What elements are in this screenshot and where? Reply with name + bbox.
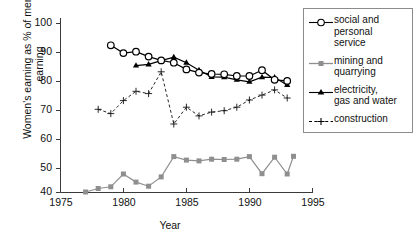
x-tick-1980: 1980 xyxy=(101,196,147,208)
filled-square-marker-icon xyxy=(308,56,334,69)
y-tick-60: 60 xyxy=(26,132,52,144)
legend-item-electricity-gas-and-water: electricity, gas and water xyxy=(308,84,408,107)
open-circle-marker-icon xyxy=(308,15,334,28)
y-tick-70: 70 xyxy=(26,103,52,115)
y-tick-100: 100 xyxy=(26,16,52,28)
legend-label: social and personal service xyxy=(334,14,379,49)
legend-item-social-and-personal-service: social and personal service xyxy=(308,14,408,49)
x-tick-1975: 1975 xyxy=(38,196,84,208)
legend-label: construction xyxy=(334,113,388,125)
x-tick-1995: 1995 xyxy=(290,196,336,208)
filled-triangle-marker-icon xyxy=(308,85,334,98)
y-tick-50: 50 xyxy=(26,161,52,173)
x-axis-label: Year xyxy=(110,219,230,231)
legend-label: mining and quarrying xyxy=(334,55,383,78)
y-tick-80: 80 xyxy=(26,74,52,86)
x-tick-1990: 1990 xyxy=(227,196,273,208)
x-tick-1985: 1985 xyxy=(164,196,210,208)
y-tick-90: 90 xyxy=(26,45,52,57)
plus-marker-icon xyxy=(308,114,334,127)
series-mining-and-quarrying xyxy=(83,154,296,195)
chart-legend: social and personal service mining and q… xyxy=(303,8,413,133)
chart-screenshot: Women's earning as % of men's earning Ye… xyxy=(0,0,419,242)
legend-item-mining-and-quarrying: mining and quarrying xyxy=(308,55,408,78)
axes xyxy=(56,18,313,193)
legend-item-construction: construction xyxy=(308,113,408,127)
legend-label: electricity, gas and water xyxy=(334,84,397,107)
